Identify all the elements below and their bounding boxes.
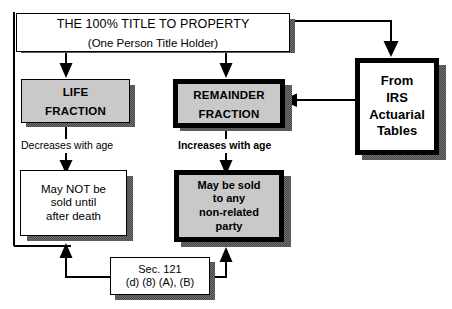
title-to-remainder-arrowhead	[220, 63, 233, 78]
remainder-fraction-line1: REMAINDER	[193, 89, 264, 101]
statute-to-life-outcome-line	[66, 258, 110, 277]
remainder-fraction-caption: Increases with age	[178, 139, 271, 151]
life-fraction-line1: LIFE	[63, 86, 89, 98]
flowchart-diagram: THE 100% TITLE TO PROPERTY (One Person T…	[0, 0, 452, 309]
life-outcome-line1: May NOT be	[41, 183, 106, 195]
life-outcome-box: May NOT be sold until after death	[20, 170, 127, 236]
statute-box-line1: Sec. 121	[138, 263, 181, 275]
title-box-line1: THE 100% TITLE TO PROPERTY	[57, 17, 250, 31]
life-fraction-caption: Decreases with age	[21, 139, 113, 151]
remainder-outcome-line2: to any	[213, 192, 245, 204]
irs-source-box: From IRS Actuarial Tables	[355, 58, 439, 155]
statute-box: Sec. 121 (d) (8) (A), (B)	[110, 257, 210, 295]
title-to-life-arrowhead	[60, 63, 73, 78]
title-to-irs-line	[288, 21, 391, 44]
remainder-outcome-line1: May be sold	[198, 179, 261, 191]
title-to-irs-arrowhead	[384, 41, 399, 57]
remainder-fraction-box: REMAINDER FRACTION	[173, 79, 285, 128]
life-fraction-box: LIFE FRACTION	[21, 79, 130, 123]
remainder-outcome-box: May be sold to any non-related party	[174, 170, 284, 242]
life-outcome-line3: after death	[46, 210, 101, 222]
irs-source-line2: IRS	[386, 90, 408, 105]
life-fraction-line2: FRACTION	[45, 105, 106, 117]
statute-to-remainder-outcome-arrowhead	[220, 247, 233, 262]
statute-box-line2: (d) (8) (A), (B)	[126, 276, 194, 288]
remainder-outcome-line3: non-related	[199, 206, 259, 218]
irs-source-line3: Actuarial	[369, 107, 425, 122]
irs-source-line4: Tables	[377, 123, 417, 138]
irs-source-line1: From	[381, 73, 414, 88]
title-box: THE 100% TITLE TO PROPERTY (One Person T…	[16, 13, 290, 52]
remainder-outcome-line4: party	[216, 220, 243, 232]
title-box-line2: (One Person Title Holder)	[88, 37, 218, 49]
remainder-fraction-line2: FRACTION	[198, 108, 259, 120]
life-outcome-line2: sold until	[51, 196, 96, 208]
